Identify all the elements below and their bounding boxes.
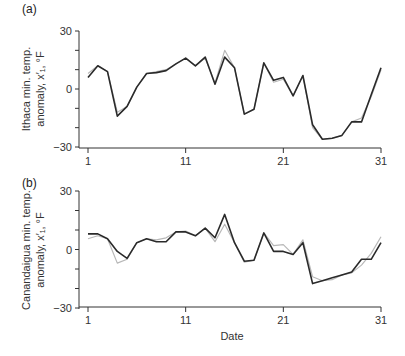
x-tick-label: 11 (180, 155, 191, 167)
x-tick-label: 11 (180, 314, 191, 326)
panel-label: (b) (22, 176, 37, 190)
series-estimated-line (88, 50, 381, 139)
x-tick-label: 1 (85, 314, 91, 326)
x-tick-label: 1 (85, 155, 91, 167)
y-tick-label: 30 (60, 185, 72, 197)
x-tick-label: 31 (375, 155, 387, 167)
y-tick-label: 0 (66, 83, 72, 95)
x-tick-label: 21 (277, 314, 289, 326)
panel-b-canandaigua: (b)300−301112131Canandaigua min. temp.an… (20, 176, 387, 342)
y-axis-label: Ithaca min. temp.anomaly, x′₁, °F (20, 47, 46, 131)
series-observed-line (88, 214, 381, 283)
y-axis-label-line2: anomaly, x′₁, °F (34, 212, 46, 288)
y-axis-label: Canandaigua min. temp.anomaly, x′₁, °F (20, 190, 46, 310)
y-tick-label: −30 (53, 141, 72, 153)
series-estimated-line (88, 224, 381, 281)
y-axis-label-line2: anomaly, x′₁, °F (34, 51, 46, 127)
y-tick-label: −30 (53, 302, 72, 314)
x-tick-label: 31 (375, 314, 387, 326)
series-observed-line (88, 57, 381, 139)
y-axis-label-line1: Ithaca min. temp. (20, 47, 32, 131)
y-tick-label: 0 (66, 244, 72, 256)
panel-label: (a) (22, 2, 37, 16)
x-axis-label: Date (220, 330, 243, 342)
y-axis-label-line1: Canandaigua min. temp. (20, 190, 32, 310)
panel-a-ithaca: (a)300−301112131Ithaca min. temp.anomaly… (20, 2, 387, 167)
y-tick-label: 30 (60, 25, 72, 37)
x-tick-label: 21 (277, 155, 289, 167)
figure: (a)300−301112131Ithaca min. temp.anomaly… (0, 0, 405, 356)
